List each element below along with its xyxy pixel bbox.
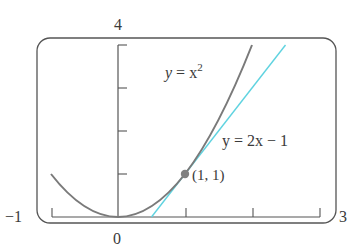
- point-label: (1, 1): [192, 167, 225, 184]
- chart-svg: 4 −1 0 3 y = x2 y = 2x − 1 (1, 1): [0, 0, 353, 250]
- y-max-label: 4: [114, 16, 122, 33]
- parabola-label: y = x2: [163, 61, 203, 82]
- tangent-point-marker: [181, 170, 189, 178]
- x-origin-label: 0: [113, 230, 121, 247]
- x-min-label: −1: [5, 208, 22, 225]
- x-max-label: 3: [339, 208, 347, 225]
- x-ticks: [52, 208, 320, 217]
- tangent-label: y = 2x − 1: [222, 132, 288, 150]
- y-ticks: [118, 45, 127, 174]
- parabola-curve: [51, 45, 252, 217]
